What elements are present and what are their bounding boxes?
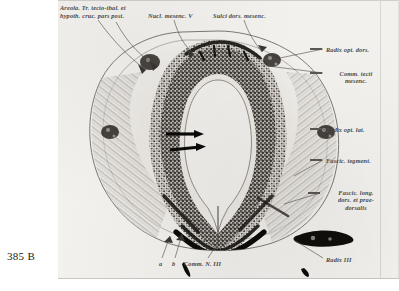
label-areola-line2: hypoth. cruc. pars post. [60,12,124,19]
label-radix-opt-lat: Radix opt. lat. [326,126,365,133]
radix-iii-root [294,230,354,246]
micrograph-panel: Areola. Tr. tecto-thal. et hypoth. cruc.… [58,0,399,279]
label-radix-iii: Radix III [326,256,352,263]
label-nucl-mesenc-v: Nucl. mesenc. V [148,12,193,19]
label-fascic-tegment: Fascic. tegment. [326,157,371,164]
plate-caption: 385 B [7,250,35,262]
label-marker-a: a [159,260,162,267]
section-drawing [58,0,399,279]
label-areola-line1: Areola. Tr. tecto-thal. et [60,4,126,11]
label-sulci-dors-mesenc: Sulci dors. mesenc. [213,12,266,19]
figure-plate: 385 B [0,0,399,291]
label-marker-b: b [172,260,175,267]
label-radix-opt-dors: Radix opt. dors. [326,46,369,53]
label-comm-n-iii: Comm. N. III [184,260,221,267]
label-comm-tecti-mesenc: Comm. tecti mesenc. [326,70,386,85]
label-fascic-long-dors: Fascic. long. dors. et prae- dorsalis [323,189,389,211]
root-fragment-right [301,268,309,277]
